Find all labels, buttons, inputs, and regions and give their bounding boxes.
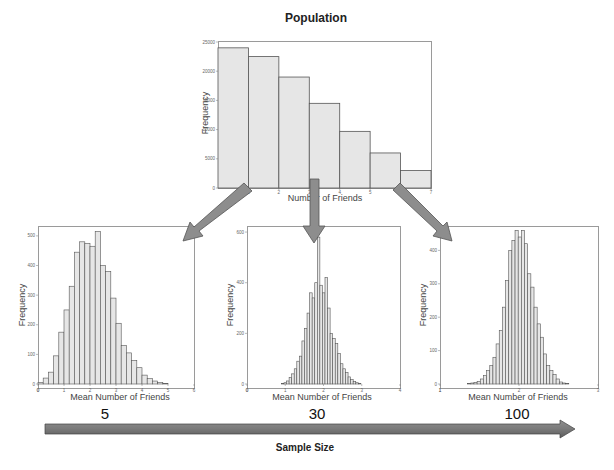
svg-text:500: 500 — [27, 233, 35, 238]
svg-text:400: 400 — [27, 263, 35, 268]
svg-text:1: 1 — [439, 388, 442, 393]
svg-text:300: 300 — [27, 293, 35, 298]
svg-text:6: 6 — [193, 388, 196, 393]
svg-text:200: 200 — [236, 331, 244, 336]
svg-text:0: 0 — [37, 388, 40, 393]
sample_n5-bars — [38, 231, 168, 384]
svg-text:5: 5 — [167, 388, 170, 393]
svg-text:3: 3 — [115, 388, 118, 393]
svg-text:4: 4 — [399, 388, 402, 393]
svg-text:100: 100 — [429, 348, 437, 353]
diagram-arrows: 0100200300400500012345600200400600012340… — [0, 0, 614, 470]
svg-text:1: 1 — [284, 388, 287, 393]
svg-text:0: 0 — [246, 388, 249, 393]
svg-text:600: 600 — [236, 230, 244, 235]
svg-text:2: 2 — [322, 388, 325, 393]
svg-text:400: 400 — [429, 248, 437, 253]
svg-text:0: 0 — [241, 382, 244, 387]
sample-size-arrow-icon — [45, 420, 575, 438]
svg-text:300: 300 — [429, 281, 437, 286]
svg-text:200: 200 — [429, 315, 437, 320]
svg-text:4: 4 — [141, 388, 144, 393]
svg-text:0: 0 — [434, 382, 437, 387]
svg-text:100: 100 — [27, 352, 35, 357]
svg-text:400: 400 — [236, 280, 244, 285]
svg-text:2: 2 — [518, 388, 521, 393]
svg-text:2: 2 — [89, 388, 92, 393]
sample_n30-bars — [281, 237, 360, 384]
svg-text:200: 200 — [27, 322, 35, 327]
sample-size-axis-label: Sample Size — [255, 442, 355, 453]
sample_n100-bars — [468, 230, 569, 384]
svg-text:1: 1 — [63, 388, 66, 393]
svg-text:3: 3 — [597, 388, 600, 393]
svg-text:0: 0 — [32, 382, 35, 387]
arrow-to-n30-icon — [303, 179, 325, 243]
arrow-to-n100-icon — [393, 183, 452, 241]
svg-text:3: 3 — [360, 388, 363, 393]
